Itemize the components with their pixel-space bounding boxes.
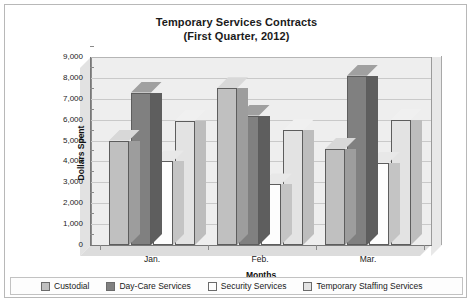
chart-title-main: Temporary Services Contracts — [5, 16, 468, 30]
y-axis-tick-mark — [90, 192, 94, 193]
bar-front-face — [109, 141, 129, 245]
y-axis-tick-mark — [90, 130, 94, 131]
y-axis-tick-label: 7,000 — [41, 94, 83, 103]
chart-frame: Temporary Services Contracts (First Quar… — [4, 4, 467, 298]
bar-column — [109, 141, 129, 245]
y-axis-tick-label: 9,000 — [41, 52, 83, 61]
legend-swatch — [41, 282, 50, 291]
bar-column — [325, 149, 345, 245]
bar-side-face — [151, 93, 162, 245]
bar-side-face — [303, 130, 314, 245]
y-axis-tick-mark — [90, 234, 94, 235]
x-axis-tick-mark — [316, 245, 317, 250]
plot-right-edge — [431, 57, 432, 245]
x-axis-tick-mark — [100, 245, 101, 250]
y-axis-tick-mark — [90, 171, 94, 172]
y-axis-tick-mark — [90, 150, 94, 151]
legend-label: Day-Care Services — [119, 281, 190, 291]
y-axis-tick-mark — [90, 88, 94, 89]
x-axis-tick-mark — [424, 245, 425, 250]
y-axis-tick-label: 0 — [41, 240, 83, 249]
legend-item: Temporary Staffing Services — [303, 281, 422, 291]
bar-side-face — [129, 141, 140, 245]
y-axis-tick-mark — [90, 213, 94, 214]
y-axis-tick-label: 6,000 — [41, 115, 83, 124]
bar-side-face — [237, 88, 248, 245]
x-axis-tick-label: Mar. — [338, 254, 398, 264]
legend-swatch — [208, 282, 217, 291]
bar-side-face — [345, 149, 356, 245]
y-axis-title: Dollars Spent — [76, 126, 86, 181]
legend-label: Security Services — [221, 281, 287, 291]
bar-side-face — [411, 120, 422, 245]
x-axis-tick-label: Feb. — [230, 254, 290, 264]
y-axis-tick-label: 1,000 — [41, 219, 83, 228]
bar-side-face — [195, 121, 206, 245]
legend-swatch — [303, 282, 312, 291]
bar-side-face — [259, 116, 270, 246]
y-axis-tick-label: 2,000 — [41, 198, 83, 207]
chart-title: Temporary Services Contracts (First Quar… — [5, 16, 468, 43]
plot-right-edge-outer — [441, 56, 442, 245]
plot-area: 01,0002,0003,0004,0005,0006,0007,0008,00… — [91, 57, 431, 245]
chart-legend: CustodialDay-Care ServicesSecurity Servi… — [10, 277, 463, 295]
bar-front-face — [325, 149, 345, 245]
y-axis-line — [90, 57, 91, 246]
chart-subtitle: (First Quarter, 2012) — [5, 30, 468, 44]
legend-swatch — [106, 282, 115, 291]
gridline — [91, 78, 431, 79]
legend-label: Temporary Staffing Services — [316, 281, 422, 291]
legend-label: Custodial — [54, 281, 89, 291]
x-axis-tick-label: Jan. — [122, 254, 182, 264]
gridline — [91, 57, 431, 58]
y-axis-tick-mark — [90, 67, 94, 68]
bar-side-face — [389, 163, 400, 246]
bar-side-face — [367, 76, 378, 245]
legend-item: Security Services — [208, 281, 287, 291]
y-axis-tick-mark — [90, 109, 94, 110]
legend-item: Day-Care Services — [106, 281, 190, 291]
bar-side-face — [173, 161, 184, 245]
bar-column — [217, 88, 237, 245]
x-axis-line — [91, 245, 432, 246]
bar-front-face — [217, 88, 237, 245]
y-axis-tick-mark — [90, 46, 94, 47]
legend-item: Custodial — [41, 281, 89, 291]
x-axis-tick-mark — [208, 245, 209, 250]
y-axis-tick-label: 8,000 — [41, 73, 83, 82]
